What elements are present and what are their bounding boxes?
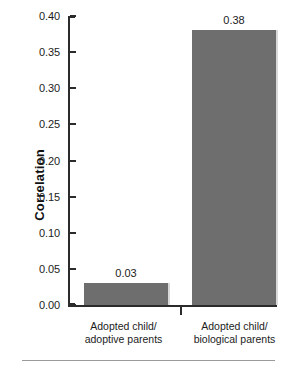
y-tick-mark	[70, 87, 76, 89]
category-label-line: biological parents	[179, 333, 290, 346]
y-tick-mark	[70, 268, 76, 270]
category-label-line: adoptive parents	[68, 333, 179, 346]
y-tick-mark	[70, 196, 76, 198]
y-tick-mark	[70, 160, 76, 162]
x-axis-line	[68, 305, 277, 307]
y-tick-mark	[70, 304, 76, 306]
plot-area: 0.400.350.300.250.200.150.100.050.00 0.0…	[68, 16, 277, 305]
y-tick-label: 0.20	[39, 155, 60, 167]
y-tick-label: 0.05	[39, 263, 60, 275]
y-tick-label: 0.00	[39, 299, 60, 311]
category-label: Adopted child/adoptive parents	[68, 320, 179, 346]
y-tick-label: 0.10	[39, 227, 60, 239]
category-label-line: Adopted child/	[179, 320, 290, 333]
category-label-line: Adopted child/	[68, 320, 179, 333]
y-tick-label: 0.30	[39, 82, 60, 94]
bar-value-label: 0.38	[223, 14, 244, 26]
y-tick-label: 0.25	[39, 118, 60, 130]
bar-value-label: 0.03	[115, 267, 136, 279]
y-tick-label: 0.40	[39, 10, 60, 22]
y-tick-label: 0.35	[39, 46, 60, 58]
y-tick-mark	[70, 15, 76, 17]
bar-chart-figure: Correlation 0.400.350.300.250.200.150.10…	[0, 0, 297, 369]
bar: 0.03	[84, 283, 170, 305]
y-tick-mark	[70, 123, 76, 125]
y-tick-mark	[70, 232, 76, 234]
y-tick-label: 0.15	[39, 191, 60, 203]
category-separator-tick	[180, 307, 182, 315]
y-tick-mark	[70, 51, 76, 53]
bar: 0.38	[192, 30, 278, 305]
x-axis-category-labels: Adopted child/adoptive parentsAdopted ch…	[68, 320, 290, 346]
figure-bottom-rule	[22, 360, 275, 361]
category-label: Adopted child/biological parents	[179, 320, 290, 346]
